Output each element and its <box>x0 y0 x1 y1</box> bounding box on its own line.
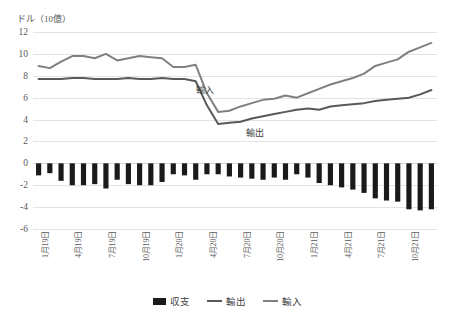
x-tick-label: 1月19日 <box>39 231 50 258</box>
x-tick-label: 1月20日 <box>173 231 184 258</box>
y-tick-label-10: 10 <box>19 49 29 59</box>
line-exports <box>39 78 432 124</box>
y-tick-label--6: -6 <box>20 224 28 234</box>
y-axis-unit-caption: ドル（10億） <box>17 12 71 25</box>
x-tick-label: 10月21日 <box>409 231 420 262</box>
x-tick-label: 4月20日 <box>207 231 218 258</box>
legend-item: 輸入 <box>263 294 302 308</box>
y-tick-label-2: 2 <box>23 136 28 146</box>
x-tick-label: 1月21日 <box>308 231 319 258</box>
trade-lines-series <box>33 32 437 229</box>
legend-label: 輸出 <box>226 294 246 308</box>
imports-series-annotation: 輸入 <box>196 83 214 96</box>
exports-series-annotation: 輸出 <box>246 126 264 139</box>
legend-item: 輸出 <box>207 294 246 308</box>
legend-line-swatch <box>263 300 278 303</box>
y-tick-label-4: 4 <box>23 115 28 125</box>
y-tick-label-6: 6 <box>23 93 28 103</box>
y-tick-label-0: 0 <box>23 158 28 168</box>
x-tick-label: 10月19日 <box>140 231 151 262</box>
x-tick-label: 10月20日 <box>274 231 285 262</box>
chart-legend: 収支輸出輸入 <box>0 294 455 308</box>
legend-label: 輸入 <box>282 294 302 308</box>
y-tick-label-8: 8 <box>23 71 28 81</box>
y-tick-label--4: -4 <box>20 202 28 212</box>
trade-balance-chart: ドル（10億） 121086420-2-4-6 輸入 輸出 1月19日4月19日… <box>0 0 455 321</box>
x-axis-labels: 1月19日4月19日7月19日10月19日1月20日4月20日7月20日10月2… <box>33 231 437 287</box>
x-tick-label: 7月20日 <box>241 231 252 258</box>
legend-label: 収支 <box>170 294 190 308</box>
legend-bar-swatch <box>153 298 166 305</box>
x-tick-label: 7月21日 <box>375 231 386 258</box>
x-tick-label: 4月19日 <box>72 231 83 258</box>
x-tick-label: 4月21日 <box>342 231 353 258</box>
x-tick-label: 7月19日 <box>106 231 117 258</box>
legend-item: 収支 <box>153 294 190 308</box>
gridline--6 <box>33 229 437 230</box>
y-tick-label-12: 12 <box>19 27 29 37</box>
legend-line-swatch <box>207 300 222 303</box>
plot-area: 121086420-2-4-6 <box>33 32 437 229</box>
y-tick-label--2: -2 <box>20 180 28 190</box>
